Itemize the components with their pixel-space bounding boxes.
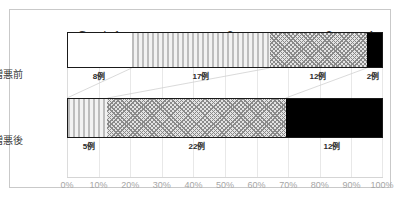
value-label-before-grade4: 2例 bbox=[367, 70, 379, 81]
value-labels-before: 8例 17例 12例 2例 bbox=[67, 70, 383, 86]
value-labels-after: 5例 22例 12例 bbox=[67, 140, 383, 156]
value-label-before-grade1: 8例 bbox=[93, 70, 105, 81]
tick-label-40: 40% bbox=[184, 180, 202, 190]
tick-label-80: 80% bbox=[311, 180, 329, 190]
value-label-after-grade4: 12例 bbox=[324, 140, 341, 151]
value-label-after-grade2: 5例 bbox=[83, 140, 95, 151]
tick-label-60: 60% bbox=[248, 180, 266, 190]
bar-segment-before-grade4[interactable] bbox=[367, 32, 383, 68]
row-label-before: 増悪前 bbox=[0, 66, 38, 81]
bar-segment-after-grade3[interactable] bbox=[107, 98, 285, 138]
tick-label-30: 30% bbox=[153, 180, 171, 190]
figure-frame: Grade1 2 3 4 増悪前 増悪後 8例 17例 12例 2例 5例 bbox=[9, 9, 391, 188]
tick-label-70: 70% bbox=[279, 180, 297, 190]
bar-segment-before-grade2[interactable] bbox=[132, 32, 270, 68]
row-label-after: 増悪後 bbox=[0, 132, 38, 147]
value-label-before-grade2: 17例 bbox=[193, 70, 210, 81]
x-axis-line bbox=[67, 177, 383, 178]
bar-row-before bbox=[67, 32, 383, 68]
bar-segment-after-grade2[interactable] bbox=[67, 98, 107, 138]
tick-label-20: 20% bbox=[121, 180, 139, 190]
value-label-before-grade3: 12例 bbox=[310, 70, 327, 81]
bar-segment-before-grade1[interactable] bbox=[67, 32, 132, 68]
value-label-after-grade3: 22例 bbox=[189, 140, 206, 151]
bar-segment-after-grade4[interactable] bbox=[286, 98, 383, 138]
tick-label-50: 50% bbox=[216, 180, 234, 190]
tick-label-0: 0% bbox=[60, 180, 73, 190]
tick-label-100: 100% bbox=[370, 180, 393, 190]
bar-segment-before-grade3[interactable] bbox=[270, 32, 367, 68]
tick-label-90: 90% bbox=[342, 180, 360, 190]
x-axis-tick-labels: 0% 10% 20% 30% 40% 50% 60% 70% 80% 90% 1… bbox=[67, 180, 383, 194]
bar-row-after bbox=[67, 98, 383, 138]
tick-label-10: 10% bbox=[90, 180, 108, 190]
